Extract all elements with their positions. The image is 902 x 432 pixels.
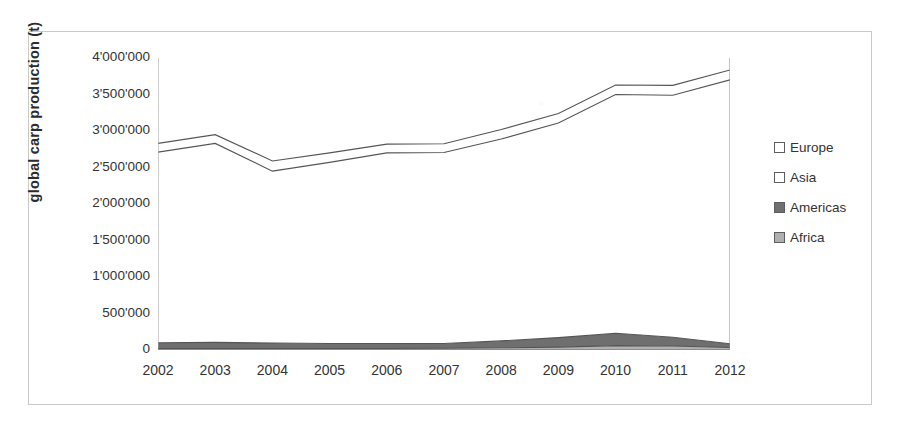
- legend-item-label: Europe: [790, 140, 834, 155]
- legend-item-americas[interactable]: Americas: [774, 192, 884, 222]
- x-tick-label: 2012: [700, 362, 760, 378]
- legend-swatch-icon: [774, 232, 785, 243]
- area-series-asia: [158, 80, 730, 344]
- legend-item-label: Americas: [790, 200, 846, 215]
- legend-swatch-icon: [774, 172, 785, 183]
- x-tick-label: 2008: [471, 362, 531, 378]
- plot-area: [158, 58, 730, 350]
- chart-figure: global carp production (t) 0500'0001'000…: [0, 0, 902, 432]
- legend-item-europe[interactable]: Europe: [774, 132, 884, 162]
- x-tick-label: 2010: [586, 362, 646, 378]
- legend-swatch-icon: [774, 142, 785, 153]
- legend-item-asia[interactable]: Asia: [774, 162, 884, 192]
- x-tick-label: 2009: [528, 362, 588, 378]
- x-tick-label: 2004: [242, 362, 302, 378]
- legend-item-label: Asia: [790, 170, 816, 185]
- x-tick-label: 2007: [414, 362, 474, 378]
- x-tick-label: 2011: [643, 362, 703, 378]
- legend-item-africa[interactable]: Africa: [774, 222, 884, 252]
- x-tick-label: 2002: [128, 362, 188, 378]
- legend-item-label: Africa: [790, 230, 825, 245]
- legend: EuropeAsiaAmericasAfrica: [774, 132, 884, 252]
- stacked-area-plot: [158, 58, 730, 350]
- legend-swatch-icon: [774, 202, 785, 213]
- x-tick-label: 2003: [185, 362, 245, 378]
- x-tick-label: 2006: [357, 362, 417, 378]
- x-tick-label: 2005: [300, 362, 360, 378]
